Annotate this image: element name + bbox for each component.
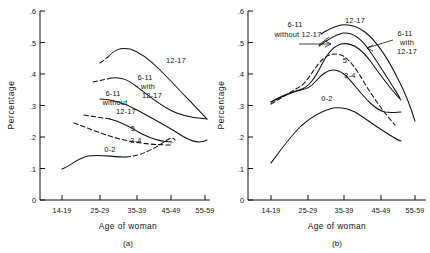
panel-a-y-ticks (40, 11, 45, 200)
panel-a-label-6-11-without-2: without (102, 98, 128, 107)
panel-b-ytick-0: 0 (240, 196, 244, 205)
panel-b-y-ticks (248, 11, 253, 200)
panel-b-xtick-4: 55-59 (406, 206, 425, 215)
panel-b-ytick-1: .1 (238, 165, 244, 174)
panel-b-ytick-2: .2 (238, 133, 244, 142)
panel-a-xtick-1: 25-29 (91, 206, 110, 215)
panel-a-label-6-11-without-1: 6-11 (105, 89, 120, 98)
panel-b-y-axis-title: Percentage (216, 81, 226, 130)
panel-a-label-12-17: 12-17 (166, 56, 186, 65)
panel-a-label-0-2: 0-2 (104, 145, 115, 154)
panel-a-curve-12-17-dashed (100, 57, 108, 63)
panel-a-xtick-4: 55-59 (196, 206, 215, 215)
panel-a-caption: (a) (123, 239, 133, 248)
panel-a-x-axis-title: Age of woman (99, 221, 157, 231)
panel-a-curve-5-dashed (84, 115, 110, 119)
panel-b-ytick-5: .5 (238, 39, 244, 48)
panel-b-xtick-0: 14-19 (262, 206, 281, 215)
panel-b-label-6-11-with-2: with (399, 38, 414, 47)
panel-b-label-6-11-with-1: 6-11 (397, 29, 412, 38)
figure-container: 0 .1 .2 .3 .4 .5 .6 14-19 25-29 35-39 45… (0, 0, 430, 253)
panel-a-ytick-5: .5 (30, 39, 36, 48)
panel-a-curve-0-2 (62, 155, 126, 169)
panel-b-leader-6-11-with (367, 40, 393, 48)
panel-a-ytick-3: .3 (30, 102, 36, 111)
panel-b-ytick-4: .4 (238, 70, 244, 79)
panel-a-xtick-0: 14-19 (53, 206, 72, 215)
panel-a-ytick-1: .1 (30, 165, 36, 174)
panel-b-label-12-17: 12-17 (345, 16, 365, 25)
panel-b-x-ticks (271, 195, 415, 200)
panel-a-ytick-6: .6 (30, 7, 36, 16)
chart-panel-a: 0 .1 .2 .3 .4 .5 .6 14-19 25-29 35-39 45… (0, 0, 215, 253)
panel-a-svg: 0 .1 .2 .3 .4 .5 .6 14-19 25-29 35-39 45… (0, 0, 215, 253)
panel-b-ytick-3: .3 (238, 102, 244, 111)
panel-a-ytick-0: 0 (32, 196, 36, 205)
panel-a-ytick-4: .4 (30, 70, 36, 79)
panel-b-svg: 0 .1 .2 .3 .4 .5 .6 14-19 25-29 35-39 45… (215, 0, 430, 253)
panel-b-curve-5 (271, 54, 395, 125)
panel-a-xtick-3: 45-49 (162, 206, 181, 215)
panel-b-curve-0-2 (271, 108, 401, 163)
panel-a-label-6-11-with-1: 6-11 (137, 73, 152, 82)
panel-b-label-0-2: 0-2 (321, 94, 332, 103)
panel-b-label-3-4: 3-4 (344, 71, 355, 80)
panel-a-xtick-2: 35-39 (128, 206, 147, 215)
panel-b-label-6-11-with-3: 12-17 (397, 47, 417, 56)
panel-a-label-6-11-with-2: with (140, 82, 155, 91)
panel-a-label-5: 5 (131, 124, 135, 133)
panel-a-label-6-11-without-3: 12-17 (116, 107, 136, 116)
panel-b-label-6-11-without-2: without 12-17 (274, 30, 322, 39)
panel-b-xtick-3: 45-49 (372, 206, 391, 215)
panel-b-caption: (b) (332, 239, 342, 248)
panel-b-label-6-11-without-1: 6-11 (287, 20, 302, 29)
panel-b-curve-6-11-with (319, 33, 400, 98)
panel-a-label-3-4: 3-4 (130, 136, 141, 145)
panel-a-label-6-11-with-3: 12-17 (142, 91, 162, 100)
panel-a-curve-3-4 (74, 123, 173, 145)
panel-a-curve-6-11-with-dashed (93, 78, 112, 82)
panel-b-xtick-2: 35-39 (335, 206, 354, 215)
panel-a-x-ticks (62, 195, 205, 200)
panel-b-x-axis-title: Age of woman (308, 221, 366, 231)
panel-a-y-axis-title: Percentage (6, 81, 16, 130)
panel-b-xtick-1: 25-29 (299, 206, 318, 215)
panel-a-ytick-2: .2 (30, 133, 36, 142)
panel-b-ytick-6: .6 (238, 7, 244, 16)
chart-panel-b: 0 .1 .2 .3 .4 .5 .6 14-19 25-29 35-39 45… (215, 0, 430, 253)
panel-b-label-5: 5 (343, 56, 347, 65)
